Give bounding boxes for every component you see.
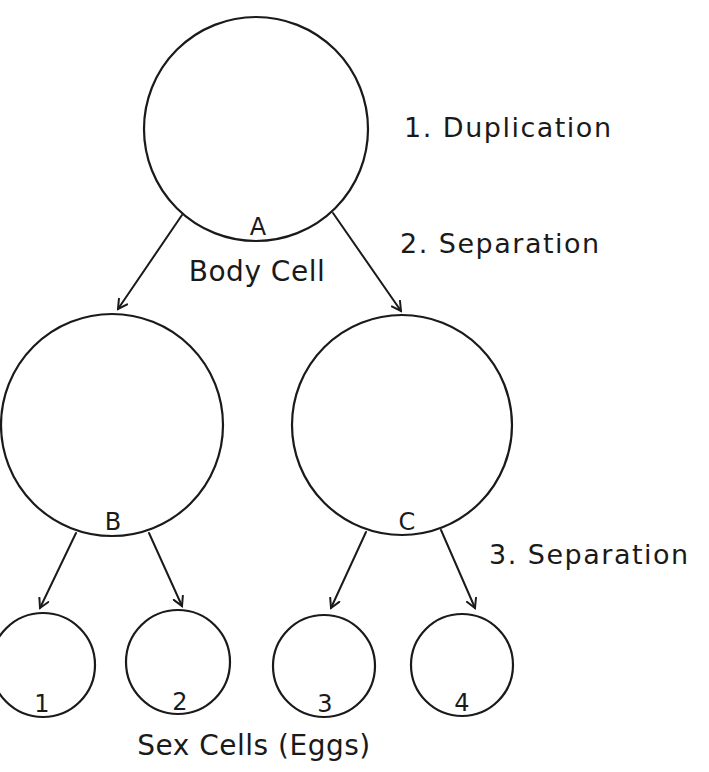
cell-a: A — [144, 17, 368, 241]
arrow-b-to-egg-1-icon — [40, 533, 76, 608]
egg-cell-1: 1 — [0, 613, 95, 718]
egg-cell-1-label: 1 — [34, 690, 49, 718]
arrow-a-to-c-icon — [333, 213, 401, 311]
egg-cell-3: 3 — [273, 615, 375, 718]
sex-cells-caption: Sex Cells (Eggs) — [137, 729, 370, 762]
egg-cell-3-label: 3 — [317, 690, 332, 718]
cell-c-label: C — [399, 508, 416, 536]
egg-cell-2-label: 2 — [172, 688, 187, 716]
egg-cell-4-label: 4 — [454, 689, 469, 717]
cell-c: C — [292, 315, 512, 536]
meiosis-diagram: A Body Cell B C 1 2 3 4 Sex Cells (Eggs)… — [0, 0, 709, 772]
step-2-label: 2. Separation — [400, 228, 601, 259]
step-1-label: 1. Duplication — [404, 112, 613, 143]
body-cell-caption: Body Cell — [189, 255, 325, 288]
cell-b-circle — [1, 314, 223, 536]
egg-cell-2: 2 — [126, 610, 230, 716]
arrow-c-to-egg-4-icon — [441, 530, 475, 608]
cell-a-label: A — [250, 213, 267, 241]
arrow-a-to-b-icon — [118, 215, 182, 309]
cell-c-circle — [292, 315, 512, 535]
cell-b: B — [1, 314, 223, 536]
cell-a-circle — [144, 17, 368, 241]
arrow-b-to-egg-2-icon — [149, 533, 182, 606]
step-3-label: 3. Separation — [489, 539, 690, 570]
cell-b-label: B — [105, 508, 121, 536]
egg-cell-4: 4 — [411, 614, 513, 717]
arrow-c-to-egg-3-icon — [331, 532, 366, 608]
